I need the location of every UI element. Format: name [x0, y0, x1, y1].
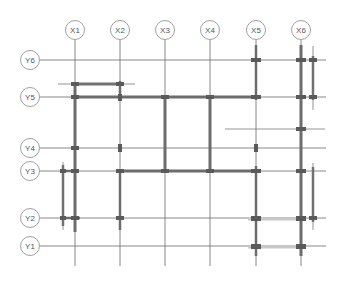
axis-bubble-y2: Y2	[21, 209, 40, 228]
axis-label: X5	[251, 26, 261, 35]
axis-bubble-y5: Y5	[21, 88, 40, 107]
node	[116, 169, 124, 173]
node	[71, 216, 79, 220]
axis-bubble-y3: Y3	[21, 162, 40, 181]
node	[254, 144, 258, 152]
node	[309, 216, 317, 220]
node	[71, 146, 79, 150]
axis-bubble-x6: X6	[292, 21, 311, 40]
structural-grid-plan: X1X2X3X4X5X6Y6Y5Y4Y3Y2Y1	[0, 0, 343, 281]
axis-label: X6	[296, 26, 306, 35]
axis-label: X1	[70, 26, 80, 35]
node	[161, 95, 169, 99]
node	[251, 216, 261, 221]
node	[309, 58, 317, 62]
node	[71, 82, 79, 86]
axis-bubble-y6: Y6	[21, 51, 40, 70]
axis-label: Y2	[25, 214, 35, 223]
node	[251, 95, 261, 99]
node	[60, 169, 66, 173]
axis-label: Y5	[25, 93, 35, 102]
node	[251, 169, 261, 173]
axis-label: Y1	[25, 242, 35, 251]
node	[118, 94, 122, 101]
node	[71, 169, 79, 173]
node	[251, 58, 261, 62]
axis-label: X2	[115, 26, 125, 35]
node	[296, 95, 306, 99]
axis-bubble-x1: X1	[66, 21, 85, 40]
node	[296, 244, 306, 249]
node	[118, 144, 122, 152]
axis-bubble-x3: X3	[156, 21, 175, 40]
axis-bubble-x2: X2	[111, 21, 130, 40]
node	[296, 216, 306, 221]
node	[116, 82, 124, 86]
node	[206, 169, 214, 173]
axis-label: X3	[160, 26, 170, 35]
node	[161, 169, 169, 173]
axis-bubble-y1: Y1	[21, 237, 40, 256]
grid-lines	[40, 40, 326, 266]
beams	[58, 45, 325, 256]
node	[296, 127, 306, 131]
node	[309, 95, 317, 99]
node	[60, 216, 66, 220]
axis-bubble-x4: X4	[201, 21, 220, 40]
axis-label: X4	[205, 26, 215, 35]
node	[296, 169, 306, 173]
axis-label: Y4	[25, 144, 35, 153]
node	[296, 58, 306, 62]
axis-label: Y3	[25, 167, 35, 176]
node	[116, 216, 124, 220]
axis-bubble-y4: Y4	[21, 139, 40, 158]
axis-bubble-x5: X5	[247, 21, 266, 40]
node	[251, 244, 261, 249]
node	[206, 95, 214, 99]
axis-label: Y6	[25, 56, 35, 65]
node	[71, 95, 79, 99]
